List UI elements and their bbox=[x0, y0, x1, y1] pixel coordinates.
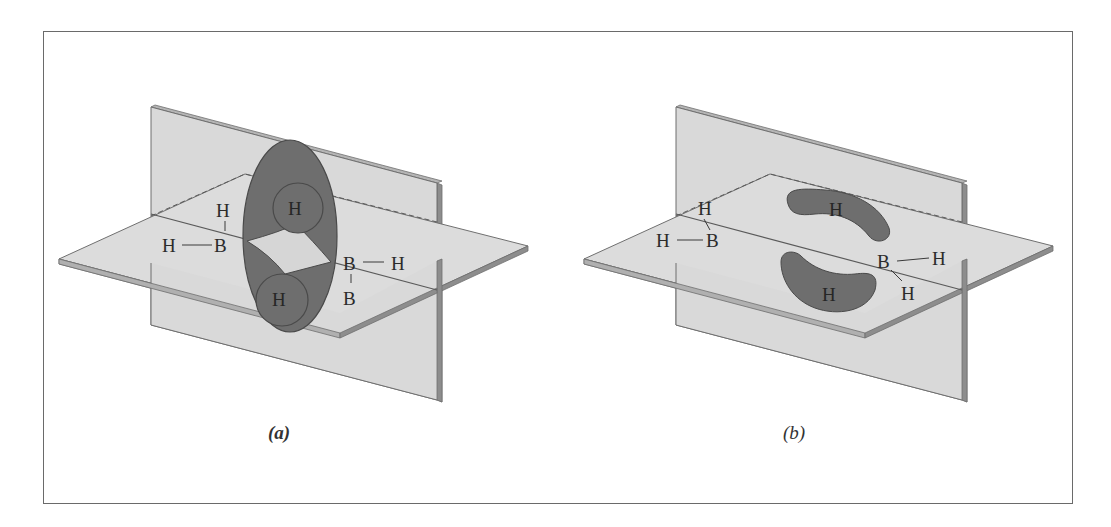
atom-terminal-h-right: H bbox=[391, 253, 405, 274]
atom-bridge-h-bottom: H bbox=[822, 284, 836, 305]
atom-boron-right-lower: B bbox=[343, 288, 356, 309]
atom-terminal-h-left: H bbox=[162, 235, 176, 256]
three-center-orbital bbox=[243, 140, 337, 332]
atom-boron-left: B bbox=[214, 235, 227, 256]
caption-a: (a) bbox=[268, 422, 290, 444]
panel-b: H H B H H B H H (b) bbox=[584, 105, 1053, 444]
atom-terminal-h-right: H bbox=[932, 248, 946, 269]
atom-bridge-h-top: H bbox=[288, 198, 302, 219]
atom-terminal-h-top: H bbox=[216, 200, 230, 221]
panel-a: H H B H H B H B (a) bbox=[59, 105, 528, 444]
caption-b: (b) bbox=[783, 422, 805, 444]
atom-bridge-h-top: H bbox=[829, 199, 843, 220]
vertical-plane-front-edge bbox=[437, 259, 442, 402]
atom-boron-left: B bbox=[706, 230, 719, 251]
diborane-figure: H H B H H B H B (a) H H bbox=[0, 0, 1111, 527]
atom-boron-right: B bbox=[343, 253, 356, 274]
atom-terminal-h-top: H bbox=[698, 198, 712, 219]
atom-bridge-h-bottom: H bbox=[272, 289, 286, 310]
atom-boron-right: B bbox=[877, 251, 890, 272]
atom-terminal-h-left: H bbox=[656, 230, 670, 251]
atom-terminal-h-right-lower: H bbox=[901, 283, 915, 304]
